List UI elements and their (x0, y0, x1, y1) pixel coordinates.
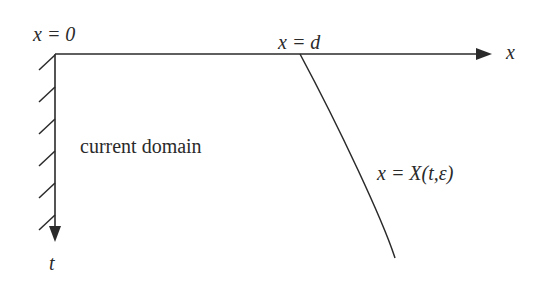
origin-label: x = 0 (33, 24, 75, 44)
hatch-mark (39, 183, 55, 198)
origin-label-text: x = 0 (33, 23, 75, 45)
t-axis-arrowhead-icon (49, 226, 61, 242)
region-label: current domain (80, 136, 202, 156)
boundary-curve (300, 54, 395, 258)
curve-label: x = X(t,ε) (377, 163, 453, 183)
x-axis-arrowhead-icon (476, 48, 492, 60)
x-axis-label: x (506, 42, 515, 62)
hatch-mark (39, 87, 55, 102)
hatch-mark (39, 151, 55, 166)
d-point-label: x = d (278, 32, 320, 52)
t-axis-label: t (49, 253, 55, 273)
wall-hatching (39, 55, 55, 230)
d-point-label-text: x = d (278, 31, 320, 53)
hatch-mark (39, 119, 55, 134)
hatch-mark (39, 55, 55, 70)
